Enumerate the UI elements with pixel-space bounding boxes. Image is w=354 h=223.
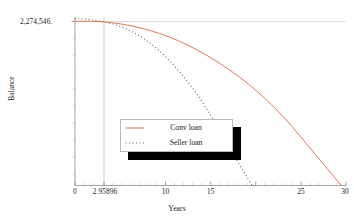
chart-container: 2,274,546. 0 2.95896 10 15 25 30 Balance…: [0, 0, 354, 223]
x-axis-tick-label-30: 30: [341, 188, 349, 195]
series-line-seller-loan: [75, 18, 252, 185]
x-axis-tick-label-0: 0: [73, 188, 77, 195]
x-axis-title: Years: [0, 204, 354, 213]
x-axis-tick-label-15: 15: [207, 188, 215, 195]
x-axis-tick-label-10: 10: [162, 188, 170, 195]
legend-swatch-dotted-line-icon: [124, 139, 146, 147]
legend-swatch-solid-line-icon: [124, 124, 146, 132]
legend: Conv loan Seller loan: [120, 119, 233, 152]
x-axis-tick-label-25: 25: [297, 188, 305, 195]
x-axis-tick-label-2-95896: 2.95896: [93, 188, 118, 195]
y-axis-tick-label-0: 2,274,546.: [20, 18, 52, 25]
y-axis-title: Balance: [7, 61, 16, 117]
x-axis-ticks: [75, 182, 346, 186]
legend-label-conv-loan: Conv loan: [146, 124, 232, 132]
legend-label-seller-loan: Seller loan: [146, 139, 232, 147]
series-line-conv-loan: [75, 21, 341, 185]
legend-item-conv-loan: Conv loan: [121, 121, 232, 136]
legend-item-seller-loan: Seller loan: [121, 136, 232, 151]
